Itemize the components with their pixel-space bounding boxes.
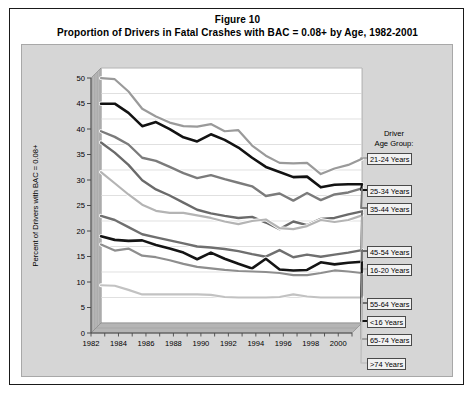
figure-caption: Proportion of Drivers in Fatal Crashes w… (16, 26, 459, 39)
legend-item-35-44[interactable]: 35-44 Years (367, 203, 412, 215)
y-tick-label: 40 (77, 125, 85, 134)
y-tick-label: 30 (77, 176, 85, 185)
legend-item-label: 25-34 Years (370, 187, 409, 196)
x-tick-label: 1992 (220, 339, 237, 348)
legend-item-label: 55-64 Years (370, 300, 409, 309)
legend-item-55-64[interactable]: 55-64 Years (367, 298, 412, 310)
x-tick-label: 1986 (137, 339, 154, 348)
legend-item->74[interactable]: >74 Years (367, 358, 406, 370)
y-tick-label: 45 (77, 99, 85, 108)
legend-header-line1: Driver (384, 129, 404, 138)
y-tick-label: 25 (77, 201, 85, 210)
legend-item-label: 16-20 Years (370, 266, 409, 275)
y-axis-title: Percent of Drivers with BAC = 0.08+ (31, 144, 40, 267)
x-tick-label: 1996 (275, 339, 292, 348)
legend-item-label: 45-54 Years (370, 248, 409, 257)
y-tick-label: 50 (77, 74, 85, 83)
legend-item-label: <16 Years (370, 318, 403, 327)
legend-item-25-34[interactable]: 25-34 Years (367, 185, 412, 197)
legend-item-21-24[interactable]: 21-24 Years (367, 153, 412, 165)
x-tick-label: 1998 (302, 339, 319, 348)
legend-item-<16[interactable]: <16 Years (367, 316, 406, 328)
legend-header: Driver Age Group: (363, 129, 425, 148)
y-tick-label: 15 (77, 252, 85, 261)
y-tick-label: 20 (77, 227, 85, 236)
legend-header-line2: Age Group: (375, 139, 414, 148)
x-tick-label: 1994 (247, 339, 264, 348)
legend-item-label: 21-24 Years (370, 155, 409, 164)
y-tick-label: 35 (77, 150, 85, 159)
x-tick-label: 1982 (83, 339, 100, 348)
x-tick-label: 2000 (330, 339, 347, 348)
legend-item-45-54[interactable]: 45-54 Years (367, 246, 412, 258)
x-tick-label: 1988 (165, 339, 182, 348)
x-tick-label: 1990 (192, 339, 209, 348)
legend-item-label: 65-74 Years (370, 336, 409, 345)
legend-item-label: 35-44 Years (370, 205, 409, 214)
y-tick-label: 10 (77, 278, 85, 287)
legend-item-16-20[interactable]: 16-20 Years (367, 264, 412, 276)
chart-panel: 0510152025303540455019821984198619881990… (21, 44, 453, 377)
figure-root: Figure 10 Proportion of Drivers in Fatal… (0, 0, 475, 395)
y-tick-label: 0 (81, 329, 85, 338)
legend-item-label: >74 Years (370, 360, 403, 369)
y-tick-label: 5 (81, 303, 85, 312)
figure-title: Figure 10 Proportion of Drivers in Fatal… (16, 14, 459, 39)
figure-number: Figure 10 (16, 14, 459, 26)
legend-item-65-74[interactable]: 65-74 Years (367, 334, 412, 346)
x-tick-label: 1984 (110, 339, 127, 348)
